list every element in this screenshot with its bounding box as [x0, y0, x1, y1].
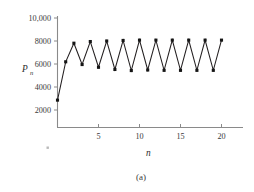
caption-layer: (a): [0, 0, 254, 192]
figure-container: 10,000 8000 6000 4000 2000 5 10 15 20 P …: [0, 0, 254, 192]
figure-caption: (a): [136, 172, 146, 182]
